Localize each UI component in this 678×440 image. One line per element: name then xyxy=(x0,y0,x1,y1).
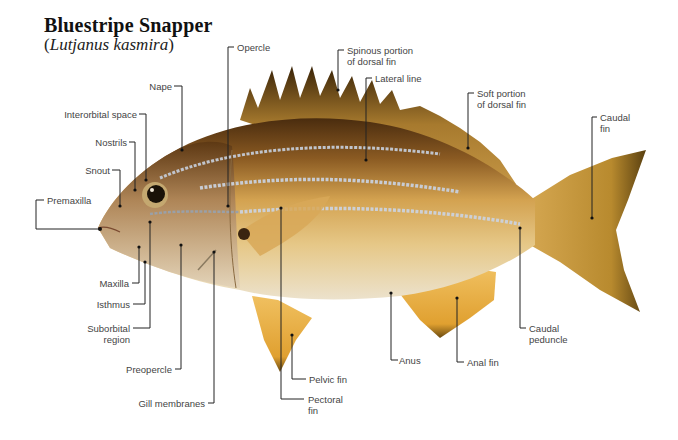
label-caudal-fin: Caudalfin xyxy=(600,112,630,134)
label-lateral-line: Lateral line xyxy=(375,73,421,84)
label-isthmus: Isthmus xyxy=(97,299,130,310)
label-line: Pectoral xyxy=(308,394,343,405)
label-line: Spinous portion xyxy=(347,45,413,56)
label-nape: Nape xyxy=(149,81,172,92)
label-suborbital-region: Suborbitalregion xyxy=(87,323,130,345)
label-snout: Snout xyxy=(85,165,110,176)
label-line: Soft portion xyxy=(477,88,526,99)
label-line: Caudal xyxy=(600,112,630,123)
label-spinous-dorsal-fin: Spinous portionof dorsal fin xyxy=(347,45,413,67)
label-interorbital-space: Interorbital space xyxy=(64,109,137,120)
label-caudal-peduncle: Caudalpeduncle xyxy=(529,323,568,345)
label-line: fin xyxy=(308,405,343,416)
label-line: region xyxy=(87,334,130,345)
label-premaxilla: Premaxilla xyxy=(47,195,91,206)
label-pelvic-fin: Pelvic fin xyxy=(309,374,347,385)
label-line: Caudal xyxy=(529,323,568,334)
label-anal-fin: Anal fin xyxy=(467,357,499,368)
label-preopercle: Preopercle xyxy=(126,364,172,375)
label-line: of dorsal fin xyxy=(477,99,526,110)
label-anus: Anus xyxy=(399,355,421,366)
label-opercle: Opercle xyxy=(237,42,270,53)
label-soft-dorsal-fin: Soft portionof dorsal fin xyxy=(477,88,526,110)
label-nostrils: Nostrils xyxy=(95,137,127,148)
label-line: fin xyxy=(600,123,630,134)
label-pectoral-fin: Pectoralfin xyxy=(308,394,343,416)
label-maxilla: Maxilla xyxy=(99,278,129,289)
label-gill-membranes: Gill membranes xyxy=(138,398,205,409)
label-line: Suborbital xyxy=(87,323,130,334)
label-line: peduncle xyxy=(529,334,568,345)
label-line: of dorsal fin xyxy=(347,56,413,67)
